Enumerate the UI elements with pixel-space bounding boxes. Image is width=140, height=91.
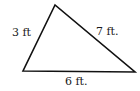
side-label-bottom: 6 ft. — [65, 76, 87, 87]
side-label-left: 3 ft — [12, 27, 31, 38]
side-label-right: 7 ft. — [96, 26, 118, 37]
triangle-diagram: 3 ft 7 ft. 6 ft. — [0, 0, 140, 91]
